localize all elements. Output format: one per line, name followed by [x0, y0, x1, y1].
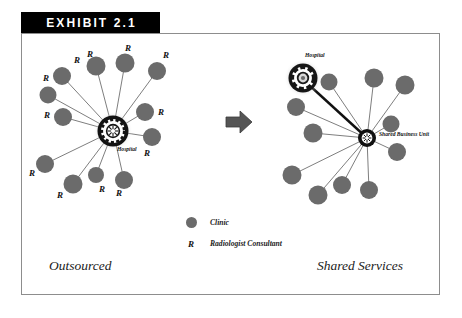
clinic-node — [333, 176, 351, 194]
clinic-node — [388, 143, 406, 161]
radiologist-letter: R — [74, 55, 80, 65]
radiologist-letter: R — [163, 50, 169, 60]
legend-item-radiologist: R Radiologist Consultant — [180, 236, 330, 251]
radiologist-node — [64, 175, 83, 194]
radiologist-letter: R — [144, 148, 150, 158]
clinic-node — [283, 166, 302, 185]
radiologist-letter: R — [125, 43, 131, 53]
hospital-gear-icon — [284, 59, 322, 97]
hospital-hub-label: Hospital — [117, 146, 137, 152]
radiologist-letter: R — [43, 73, 49, 83]
legend-key-letter: R — [188, 239, 194, 249]
clinic-node — [396, 76, 415, 95]
clinic-node — [360, 181, 378, 199]
legend: Clinic R Radiologist Consultant — [180, 215, 330, 257]
panel-caption-outsourced: Outsourced — [49, 258, 112, 274]
clinic-node — [365, 69, 384, 88]
radiologist-letter: R — [116, 188, 122, 198]
radiologist-node — [54, 108, 72, 126]
radiologist-letter: R — [57, 190, 63, 200]
radiologist-letter: R — [29, 168, 35, 178]
shared-business-unit-label: Shared Business Unit — [379, 131, 429, 137]
radiologist-node — [53, 67, 71, 85]
clinic-node — [287, 98, 305, 116]
radiologist-node — [87, 57, 106, 76]
radiologist-node — [148, 62, 166, 80]
clinic-node — [304, 124, 323, 143]
shared-unit-node-icon — [358, 129, 376, 147]
radiologist-letter: R — [87, 49, 93, 59]
legend-item-clinic: Clinic — [180, 215, 330, 230]
panel-caption-shared-services: Shared Services — [317, 258, 403, 274]
hospital-hub-label: Hospital — [305, 52, 325, 58]
hospital-gear-icon — [93, 111, 133, 151]
radiologist-letter: R — [158, 107, 164, 117]
exhibit-page: EXHIBIT 2.1 — [0, 0, 462, 318]
clinic-node — [321, 74, 338, 91]
clinic-swatch-icon — [180, 217, 202, 228]
radiologist-key-icon: R — [180, 239, 202, 249]
legend-label-clinic: Clinic — [202, 218, 229, 227]
radiologist-letter: R — [44, 110, 50, 120]
radiologist-node — [36, 155, 54, 173]
radiologist-node — [115, 171, 133, 189]
radiologist-node — [143, 128, 161, 146]
radiologist-node — [88, 167, 104, 183]
radiologist-node — [40, 87, 57, 104]
left-panel-network — [36, 54, 166, 194]
arrow-right-icon — [226, 111, 252, 133]
clinic-node — [309, 186, 328, 205]
clinic-node — [383, 116, 400, 133]
legend-label-radiologist: Radiologist Consultant — [202, 239, 282, 248]
radiologist-node — [136, 103, 154, 121]
radiologist-node — [116, 54, 135, 73]
radiologist-letter: R — [99, 184, 105, 194]
